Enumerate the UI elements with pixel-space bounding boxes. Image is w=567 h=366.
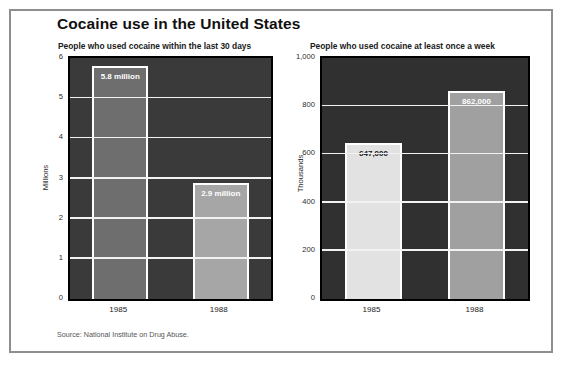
y-tick-label: 800 xyxy=(302,100,315,109)
gridline xyxy=(322,201,528,203)
x-axis-right: 19851988 xyxy=(320,305,530,319)
gridline xyxy=(70,257,271,259)
x-tick-label: 1985 xyxy=(68,305,169,314)
gridline xyxy=(70,56,271,58)
y-tick-label: 6 xyxy=(59,52,63,61)
gridline xyxy=(70,97,271,99)
page-title: Cocaine use in the United States xyxy=(57,15,301,33)
y-tick-label: 5 xyxy=(59,92,63,101)
chart-title-right: People who used cocaine at least once a … xyxy=(310,41,495,51)
y-tick-label: 1 xyxy=(59,252,63,261)
gridline xyxy=(322,56,528,58)
x-axis-left: 19851988 xyxy=(68,305,273,319)
y-tick-label: 3 xyxy=(59,172,63,181)
y-tick-label: 2 xyxy=(59,212,63,221)
gridline xyxy=(70,217,271,219)
bar-value-label: 2.9 million xyxy=(195,189,247,198)
y-tick-label: 0 xyxy=(59,293,63,302)
plot-background-right: 647,000862,000 xyxy=(320,56,530,301)
bar-1985[interactable]: 5.8 million xyxy=(92,66,148,299)
x-tick-label: 1988 xyxy=(423,305,526,314)
bar-1985[interactable]: 647,000 xyxy=(345,143,403,299)
bar-value-label: 5.8 million xyxy=(94,72,146,81)
gridline xyxy=(322,105,528,107)
figure-page: Cocaine use in the United States People … xyxy=(0,0,567,366)
bar-1988[interactable]: 2.9 million xyxy=(193,183,249,299)
x-tick-label: 1985 xyxy=(320,305,423,314)
plot-area-right: 647,000862,000 xyxy=(320,56,530,301)
y-tick-label: 0 xyxy=(311,293,315,302)
gridline xyxy=(70,177,271,179)
chart-title-left: People who used cocaine within the last … xyxy=(58,41,251,51)
x-tick-label: 1988 xyxy=(169,305,270,314)
y-tick-label: 1,000 xyxy=(296,52,315,61)
source-note: Source: National Institute on Drug Abuse… xyxy=(57,330,189,339)
y-axis-title-left: Millions xyxy=(41,155,50,201)
bar-1988[interactable]: 862,000 xyxy=(448,91,506,299)
gridline xyxy=(70,137,271,139)
plot-area-left: 5.8 million2.9 million xyxy=(68,56,273,301)
y-tick-label: 200 xyxy=(302,244,315,253)
y-tick-label: 4 xyxy=(59,132,63,141)
gridline xyxy=(322,153,528,155)
gridline xyxy=(322,249,528,251)
y-axis-title-right: Thousands xyxy=(296,146,305,202)
plot-background-left: 5.8 million2.9 million xyxy=(68,56,273,301)
